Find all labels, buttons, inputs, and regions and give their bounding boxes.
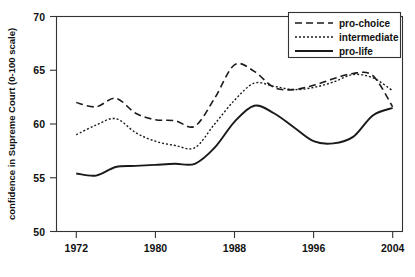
x-axis-ticks	[76, 232, 392, 239]
x-tick-labels: 1972 1980 1988 1996 2004	[65, 242, 405, 254]
y-tick-labels: 70 65 60 55 50	[33, 11, 45, 238]
y-tick-label: 70	[33, 11, 45, 23]
x-tick-label: 1980	[144, 242, 168, 254]
line-chart: 70 65 60 55 50 confidence in Supreme Cou…	[0, 0, 415, 277]
series-group	[76, 63, 392, 175]
series-line-pro-choice	[76, 63, 392, 127]
series-line-intermediate	[76, 74, 392, 149]
y-axis-ticks	[50, 17, 57, 232]
y-axis-title: confidence in Supreme Court (0-100 scale…	[6, 28, 17, 220]
legend-label-intermediate: intermediate	[339, 32, 399, 43]
y-tick-label: 60	[33, 118, 45, 130]
chart-legend: pro-choice intermediate pro-life	[289, 13, 401, 58]
series-line-pro-life	[76, 105, 392, 175]
y-tick-label: 65	[33, 64, 45, 76]
chart-figure: 70 65 60 55 50 confidence in Supreme Cou…	[0, 0, 415, 277]
y-tick-label: 55	[33, 172, 45, 184]
x-tick-label: 1988	[223, 242, 247, 254]
legend-label-pro-life: pro-life	[339, 46, 373, 57]
x-tick-label: 1972	[65, 242, 89, 254]
x-tick-label: 1996	[302, 242, 326, 254]
legend-label-pro-choice: pro-choice	[339, 18, 391, 29]
y-tick-label: 50	[33, 226, 45, 238]
x-tick-label: 2004	[381, 242, 405, 254]
